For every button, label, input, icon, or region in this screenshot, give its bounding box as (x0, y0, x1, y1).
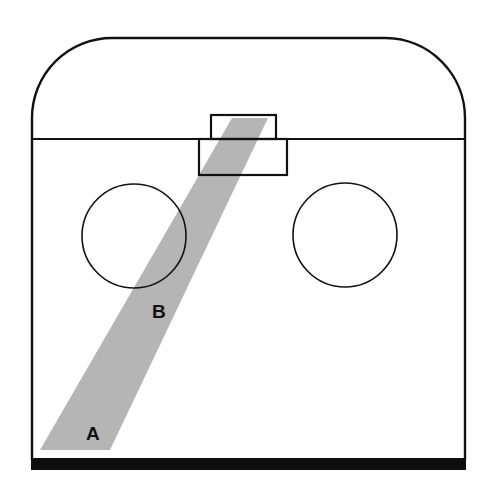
floor-bar (31, 458, 466, 470)
right-circle (293, 183, 397, 287)
label-a: A (86, 423, 100, 444)
label-b: B (152, 301, 166, 322)
diagram-canvas: B A (0, 0, 498, 488)
